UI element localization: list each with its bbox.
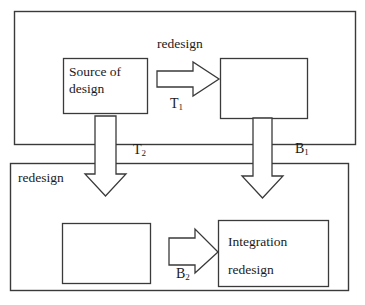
box-bottom-left-empty [63, 224, 151, 284]
label-t2: T2 [133, 142, 146, 158]
source-line-2: design [69, 81, 145, 98]
label-b2-letter: B [176, 266, 185, 281]
label-redesign-top: redesign [157, 36, 203, 51]
label-redesign-left: redesign [18, 170, 64, 185]
label-b2-subscript: 2 [185, 272, 190, 282]
source-line-1: Source of [69, 64, 145, 81]
box-source-of-design-label: Source of design [69, 64, 145, 98]
label-b1-subscript: 1 [304, 147, 309, 157]
integration-line-2: redesign [228, 256, 324, 284]
box-top-right-empty [221, 59, 308, 119]
label-b1-letter: B [295, 141, 304, 156]
integration-line-1: Integration [228, 228, 324, 256]
label-t2-subscript: 2 [142, 148, 147, 158]
diagram-canvas: Source of design Integration redesign re… [0, 0, 365, 305]
label-t2-letter: T [133, 142, 142, 157]
label-t1-subscript: 1 [179, 102, 184, 112]
label-b2: B2 [176, 266, 190, 282]
label-t1: T1 [170, 96, 183, 112]
label-t1-letter: T [170, 96, 179, 111]
box-integration-redesign-label: Integration redesign [228, 228, 324, 283]
label-b1: B1 [295, 141, 309, 157]
